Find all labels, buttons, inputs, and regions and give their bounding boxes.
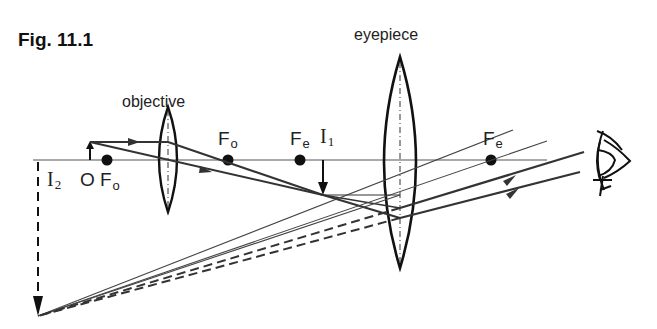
objective-label: objective [122,93,185,110]
intermediate-image-arrow [318,160,328,195]
final-image-arrow [33,162,43,316]
virtual-rays [38,208,400,316]
svg-text:I1: I1 [320,125,334,149]
label-i1: I1 [320,125,334,149]
svg-text:Fo: Fo [218,128,238,151]
focal-point-objective-left [102,155,113,166]
microscope-diagram: Fig. 11.1 objective eyepiece [0,0,657,329]
construction-rays [38,130,547,316]
label-i2: I2 [47,168,61,192]
label-fo-right: Fo [218,128,238,151]
label-fo-left: Fo [100,169,120,193]
svg-text:Fe: Fe [290,128,310,151]
object-arrow [86,141,94,160]
eyepiece-lens [384,57,416,268]
objective-rays [90,138,323,195]
eye-icon [593,131,630,196]
label-fe-left: Fe [290,128,310,151]
figure-title: Fig. 11.1 [18,29,93,50]
svg-text:I2: I2 [47,168,61,192]
focal-point-eyepiece-left [295,155,306,166]
label-fe-right: Fe [483,128,503,151]
eyepiece-label: eyepiece [354,26,418,43]
svg-text:Fo: Fo [100,169,120,193]
svg-text:Fe: Fe [483,128,503,151]
label-object: O [80,169,95,190]
